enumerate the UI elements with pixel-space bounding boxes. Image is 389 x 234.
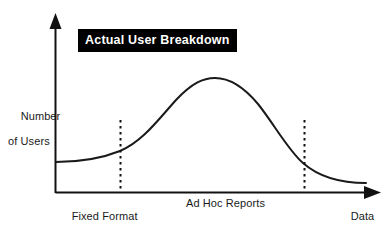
actual-user-breakdown-chart: Actual User Breakdown Number of Users Fi… xyxy=(0,0,389,234)
y-axis-label: Number of Users xyxy=(8,97,60,172)
x-axis-label-ad-hoc-reports: Ad Hoc Reports xyxy=(186,197,265,210)
user-distribution-curve xyxy=(56,78,366,183)
chart-title-badge: Actual User Breakdown xyxy=(78,29,237,52)
x-axis-label-fixed-format-line1: Fixed Format xyxy=(72,210,138,222)
x-axis-label-data-mining: Data Mining xyxy=(338,197,374,234)
y-axis-arrow-icon xyxy=(50,13,62,29)
y-axis-label-line1: Number xyxy=(21,110,61,122)
y-axis-label-line2: of Users xyxy=(8,135,60,148)
x-axis-label-fixed-format: Fixed Format Structured Reports xyxy=(59,197,146,234)
x-axis-label-data-mining-line1: Data xyxy=(351,210,375,222)
